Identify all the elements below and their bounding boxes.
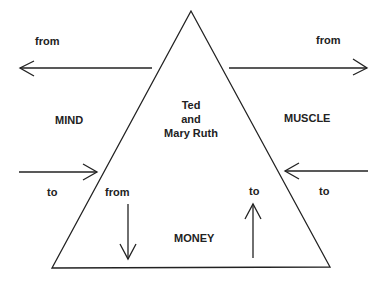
center-label: Ted and Mary Ruth bbox=[131, 98, 251, 140]
label-to-bottom: to bbox=[249, 184, 259, 198]
center-line-1: Ted bbox=[131, 98, 251, 112]
arrow-to-muscle bbox=[285, 163, 368, 179]
center-line-2: and bbox=[131, 112, 251, 126]
diagram-canvas: Ted and Mary Ruth from from MIND MUSCLE … bbox=[0, 0, 387, 283]
label-from-top-left: from bbox=[35, 34, 59, 48]
label-from-top-right: from bbox=[316, 33, 340, 47]
arrow-down-from-money bbox=[120, 204, 136, 259]
center-line-3: Mary Ruth bbox=[131, 126, 251, 140]
label-muscle: MUSCLE bbox=[284, 111, 330, 125]
arrow-left-from-mind bbox=[20, 61, 152, 76]
arrow-right-from-muscle bbox=[229, 59, 367, 75]
label-from-bottom: from bbox=[105, 185, 129, 199]
arrow-up-to-money bbox=[245, 204, 261, 258]
label-to-left: to bbox=[47, 185, 57, 199]
label-mind: MIND bbox=[55, 113, 83, 127]
arrow-to-mind bbox=[19, 164, 97, 180]
label-money: MONEY bbox=[174, 231, 214, 245]
label-to-right: to bbox=[319, 184, 329, 198]
